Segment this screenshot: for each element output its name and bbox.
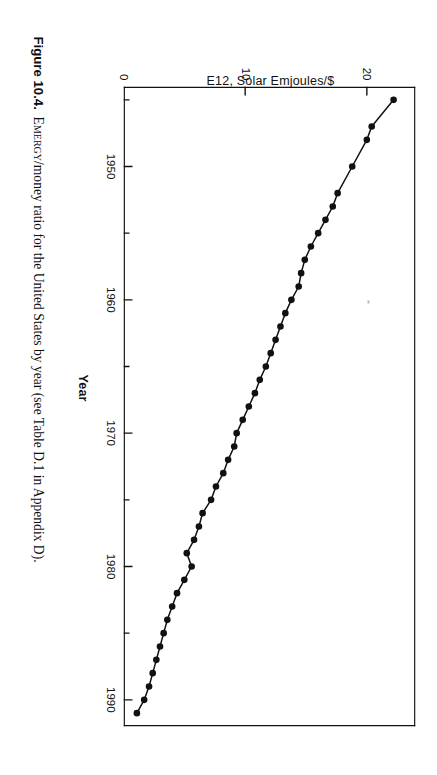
- data-point: [156, 643, 163, 650]
- data-point: [297, 269, 304, 276]
- x-axis-title: Year: [75, 0, 89, 775]
- figure-number: Figure 10.4.: [30, 36, 45, 109]
- data-point: [295, 283, 302, 290]
- x-tick-label: 1980: [104, 553, 116, 579]
- caption-text: /money ratio for the United States by ye…: [30, 161, 45, 563]
- scanned-page: 19501960197019801990 01020 Year E12, Sol…: [0, 0, 437, 775]
- series-markers: [133, 96, 396, 716]
- axis-frame: [123, 86, 415, 726]
- x-tick-label: 1970: [104, 420, 116, 446]
- x-tick-label: 1950: [104, 153, 116, 179]
- data-point: [390, 96, 397, 103]
- figure-caption: Figure 10.4. Emergy/money ratio for the …: [28, 36, 45, 757]
- chart-plot-area: 19501960197019801990 01020: [123, 86, 415, 726]
- y-axis-title: E12, Solar Emjoules/$: [124, 73, 416, 87]
- caption-smallcaps-lead: Emergy: [30, 116, 45, 160]
- x-tick-label: 1990: [104, 687, 116, 713]
- data-point: [195, 523, 202, 530]
- data-point: [145, 683, 152, 690]
- axis-ticks: [123, 86, 366, 699]
- data-point: [188, 563, 195, 570]
- data-point: [230, 443, 237, 450]
- series-line: [136, 99, 393, 712]
- x-tick-label: 1960: [104, 287, 116, 313]
- line-chart: [123, 86, 415, 726]
- data-point: [149, 669, 156, 676]
- data-point: [153, 656, 160, 663]
- data-point: [160, 629, 167, 636]
- figure-container: 19501960197019801990 01020 Year E12, Sol…: [0, 0, 437, 775]
